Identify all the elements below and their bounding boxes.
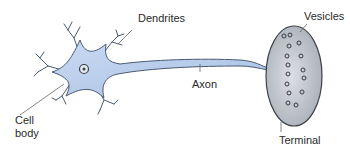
terminal-label: Terminal bbox=[279, 134, 321, 147]
cell-body-label-line1: Cell bbox=[15, 114, 34, 127]
dendrites-label: Dendrites bbox=[138, 12, 185, 25]
axon-label: Axon bbox=[192, 78, 217, 91]
vesicles-label: Vesicles bbox=[304, 10, 344, 23]
axon-terminal bbox=[266, 26, 322, 126]
leader-lines bbox=[20, 24, 307, 132]
cell-body-label-line2: body bbox=[15, 127, 39, 140]
nucleolus bbox=[83, 68, 86, 71]
